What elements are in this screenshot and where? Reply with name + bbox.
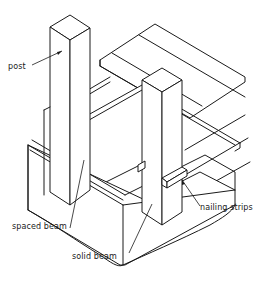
right-post	[138, 68, 187, 225]
left-post	[44, 15, 90, 205]
beam-construction-drawing	[0, 0, 256, 283]
diagram-canvas: post spaced beam solid beam nailing stri…	[0, 0, 256, 283]
label-post: post	[8, 62, 26, 71]
label-nailing-strips: nailing strips	[200, 203, 253, 212]
label-solid-beam: solid beam	[72, 252, 117, 261]
label-spaced-beam: spaced beam	[12, 222, 67, 231]
